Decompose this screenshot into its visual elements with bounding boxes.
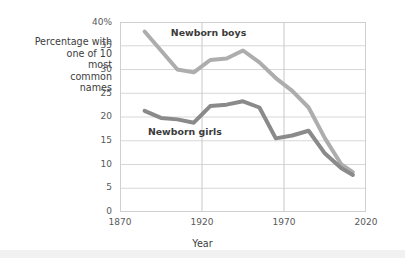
y-tick-label-10: 10 [80,160,112,169]
chart-svg [120,22,366,212]
series-label-newborn-girls: Newborn girls [148,126,222,137]
y-tick-label-15: 15 [80,136,112,145]
y-tick-label-20: 20 [80,112,112,121]
y-tick-label-40: 40% [80,18,112,27]
y-tick-label-30: 30 [80,65,112,74]
series-lines [145,32,353,175]
plot-area: Newborn boys Newborn girls [120,22,366,212]
series-label-newborn-boys: Newborn boys [171,27,246,38]
y-tick-label-35: 35 [80,41,112,50]
x-tick-label-1970: 1970 [262,218,306,227]
x-tick-label-2020: 2020 [344,218,388,227]
series-line-newborn-girls [145,101,353,175]
y-tick-label-25: 25 [80,89,112,98]
chart-figure: Percentage with one of 10 most common na… [0,0,405,258]
footer-strip [0,250,405,258]
y-tick-label-5: 5 [80,183,112,192]
x-tick-label-1920: 1920 [180,218,224,227]
x-tick-label-1870: 1870 [98,218,142,227]
x-axis-title: Year [0,238,405,249]
y-tick-label-0: 0 [80,207,112,216]
